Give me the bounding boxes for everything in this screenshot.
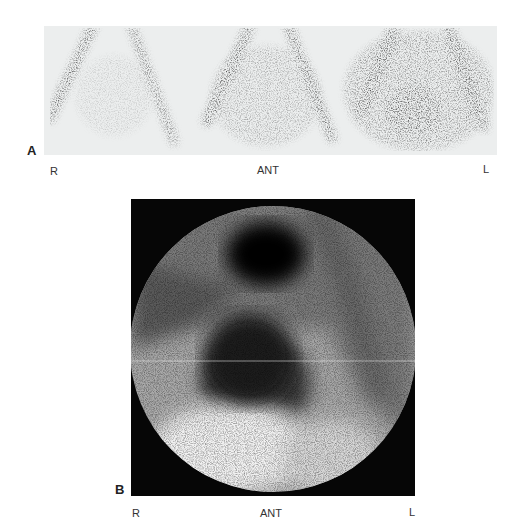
panel-b-gamma-camera-image	[131, 199, 415, 496]
panel-b-view-label: ANT	[260, 507, 282, 519]
panel-a-right-marker: R	[50, 165, 58, 177]
panel-a-label: A	[27, 143, 36, 158]
panel-b-label: B	[115, 482, 124, 497]
panel-b-image	[131, 199, 415, 496]
panel-a-scintigraphy-frames	[44, 26, 497, 155]
panel-a-view-label: ANT	[257, 164, 279, 176]
panel-a-image-strip	[44, 26, 497, 155]
panel-b-left-marker: L	[409, 506, 415, 518]
panel-a-left-marker: L	[483, 163, 489, 175]
panel-b-right-marker: R	[132, 507, 140, 519]
